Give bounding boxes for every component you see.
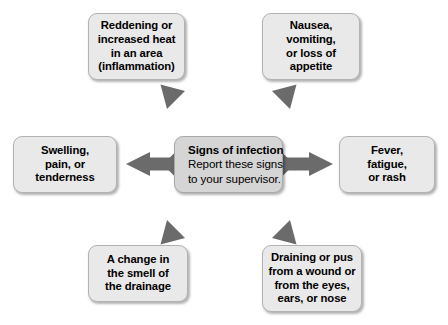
node-bottom-right-line-3: from the eyes, (269, 279, 356, 293)
node-bottom-right-line-2: from a wound or (269, 265, 356, 279)
node-right-line-3: or rash (367, 171, 406, 185)
node-right-line-1: Fever, (367, 144, 406, 158)
node-left-line-3: tenderness (35, 171, 94, 185)
node-top-right-line-2: vomiting, (286, 33, 336, 47)
node-right-line-2: fatigue, (367, 158, 406, 172)
node-center-title: Signs of infection (188, 143, 283, 158)
node-left[interactable]: Swelling, pain, or tenderness (13, 136, 117, 193)
node-top-right-line-4: appetite (286, 60, 336, 74)
node-bottom-right-line-1: Draining or pus (269, 251, 356, 265)
node-top-left-line-3: in an area (98, 47, 176, 61)
node-bottom-left-line-1: A change in (105, 253, 171, 267)
node-bottom-right-line-4: ears, or nose (269, 292, 356, 306)
node-top-left[interactable]: Reddening or increased heat in an area (… (88, 13, 185, 80)
node-left-line-2: pain, or (35, 158, 94, 172)
node-left-line-1: Swelling, (35, 144, 94, 158)
node-bottom-left-line-2: the smell of (105, 267, 171, 281)
node-top-left-line-1: Reddening or (98, 19, 176, 33)
infection-signs-diagram: Reddening or increased heat in an area (… (0, 0, 448, 325)
node-top-left-line-4: (inflammation) (98, 60, 176, 74)
node-top-left-line-2: increased heat (98, 33, 176, 47)
node-center-line-2: to your supervisor. (188, 172, 283, 187)
node-center-line-1: Report these signs (188, 157, 283, 172)
node-bottom-left[interactable]: A change in the smell of the drainage (88, 245, 188, 302)
node-top-right[interactable]: Nausea, vomiting, or loss of appetite (262, 13, 360, 80)
node-center[interactable]: Signs of infection Report these signs to… (174, 136, 283, 193)
node-bottom-right[interactable]: Draining or pus from a wound or from the… (262, 245, 362, 312)
node-top-right-line-3: or loss of (286, 47, 336, 61)
node-bottom-left-line-3: the drainage (105, 280, 171, 294)
node-right[interactable]: Fever, fatigue, or rash (339, 136, 435, 193)
node-top-right-line-1: Nausea, (286, 19, 336, 33)
